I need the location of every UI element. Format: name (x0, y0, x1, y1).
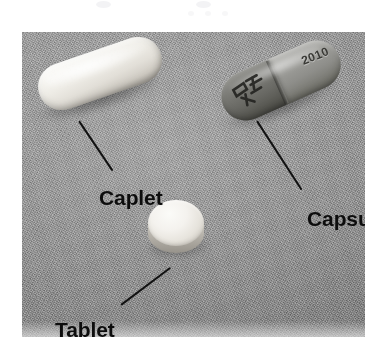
caplet-leader-line (78, 120, 113, 171)
scan-artifact (96, 1, 111, 8)
scan-artifact (196, 1, 211, 8)
scan-artifact (188, 11, 194, 16)
capsule-label: Capsule (307, 208, 365, 229)
capsule-leader-line (256, 120, 302, 190)
scan-artifact (222, 11, 228, 16)
scan-artifact (205, 11, 211, 16)
figure-root: 2010 Caplet Capsule Tablet (0, 0, 389, 352)
tablet-label: Tablet (55, 319, 115, 337)
photograph: 2010 Caplet Capsule Tablet (22, 32, 365, 337)
tablet-leader-line (120, 267, 171, 306)
caplet-label: Caplet (99, 187, 163, 208)
